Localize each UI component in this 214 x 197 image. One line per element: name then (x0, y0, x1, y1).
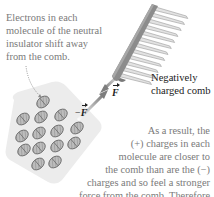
note-line: As a result, the (79, 124, 210, 137)
force-symbol: F (81, 107, 88, 118)
note-line: charges and so feel a stronger (79, 176, 210, 189)
note-line: (+) charges in each (79, 137, 210, 150)
label-line: charged comb (151, 85, 211, 98)
force-symbol: F (112, 87, 119, 98)
comb-label: Negatively charged comb (151, 72, 211, 97)
note-line: Electrons in each (6, 11, 102, 24)
result-explanation: As a result, the (+) charges in each mol… (79, 124, 210, 197)
label-line: Negatively (151, 72, 211, 85)
force-label-on-comb: F (112, 87, 119, 98)
note-line: insulator shift away (6, 37, 102, 50)
note-line: force from the comb. Therefore (79, 189, 210, 197)
note-line: the comb than are the (−) (79, 163, 210, 176)
electrons-shift-note: Electrons in each molecule of the neutra… (6, 11, 102, 63)
note-line: molecule of the neutral (6, 24, 102, 37)
force-label-on-insulator: −F (75, 107, 87, 118)
note-line: from the comb. (6, 50, 102, 63)
note-line: molecule are closer to (79, 150, 210, 163)
